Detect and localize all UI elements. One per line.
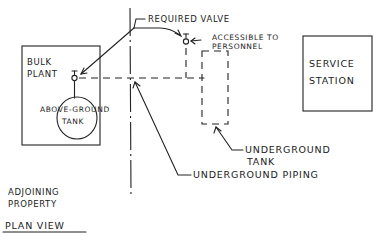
- service-station-boundary: [303, 36, 372, 111]
- required-valve-leader-stem: [134, 19, 145, 28]
- underground-tank-icon: [202, 51, 228, 124]
- plan-view-diagram: BULK PLANT ABOVE-GROUND TANK SERVICE STA…: [0, 0, 378, 244]
- service-station-label-2: STATION: [309, 75, 355, 86]
- required-valve-icon: [183, 34, 188, 44]
- required-valve-label: REQUIRED VALVE: [148, 14, 230, 24]
- bulk-plant-label-1: BULK: [27, 57, 52, 67]
- bulk-plant-label-2: PLANT: [27, 69, 58, 79]
- arrowhead-icon: [175, 30, 181, 36]
- bulk-plant-valve-icon: [72, 71, 77, 81]
- above-ground-tank-label-2: TANK: [61, 117, 85, 126]
- underground-piping-leader: [135, 82, 191, 175]
- property-line: [130, 8, 131, 196]
- accessible-label-1: ACCESSIBLE TO: [212, 33, 279, 42]
- underground-tank-label-1: UNDERGROUND: [245, 144, 331, 155]
- service-station-label-1: SERVICE: [309, 58, 355, 69]
- underground-tank-label-2: TANK: [246, 156, 275, 167]
- required-valve-leader-left: [81, 28, 134, 74]
- accessible-label-2: PERSONNEL: [212, 42, 263, 51]
- adjoining-property-label-2: PROPERTY: [8, 199, 57, 209]
- underground-piping-label: UNDERGROUND PIPING: [193, 169, 319, 180]
- plan-view-title: PLAN VIEW: [5, 220, 65, 231]
- above-ground-tank-label-1: ABOVE-GROUND: [40, 105, 110, 114]
- adjoining-property-label-1: ADJOINING: [8, 187, 59, 197]
- required-valve-leader-right: [134, 28, 180, 35]
